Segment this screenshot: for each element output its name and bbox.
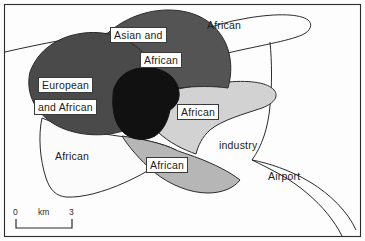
label-airport: Airport — [268, 170, 300, 182]
label-asian-african-line2: African — [140, 52, 182, 68]
label-african-bottom-left: African — [55, 150, 89, 162]
label-african-bottom-wedge: African — [146, 157, 188, 173]
label-asian-african-line1: Asian and — [110, 27, 167, 43]
label-european-african-line2: and African — [34, 99, 97, 115]
scale-bar-unit: km — [38, 207, 49, 217]
scale-bar-right-value: 3 — [69, 207, 74, 217]
label-european-african-line1: European — [38, 77, 93, 93]
label-african-top-right: African — [207, 19, 241, 31]
map-figure: Asian and African European and African A… — [0, 0, 365, 241]
scale-bar-left-value: 0 — [13, 207, 18, 217]
label-industry: industry — [219, 139, 257, 151]
label-african-tongue: African — [177, 104, 219, 120]
map-canvas — [0, 0, 365, 241]
